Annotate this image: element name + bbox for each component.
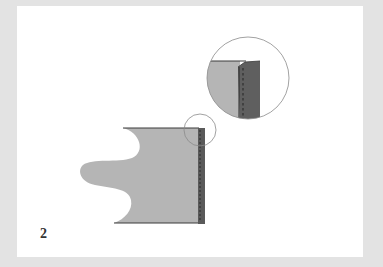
sewing-diagram [0,0,383,267]
fabric-piece [80,128,199,223]
step-number: 2 [40,226,47,242]
magnified-detail [200,37,289,131]
folded-edge [198,128,205,224]
